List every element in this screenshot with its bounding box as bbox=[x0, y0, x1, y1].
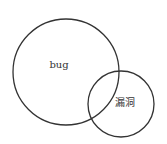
bug-circle bbox=[13, 19, 119, 125]
venn-diagram: bug 漏洞 bbox=[0, 0, 167, 144]
bug-label: bug bbox=[49, 59, 69, 70]
vulnerability-label: 漏洞 bbox=[115, 97, 135, 108]
